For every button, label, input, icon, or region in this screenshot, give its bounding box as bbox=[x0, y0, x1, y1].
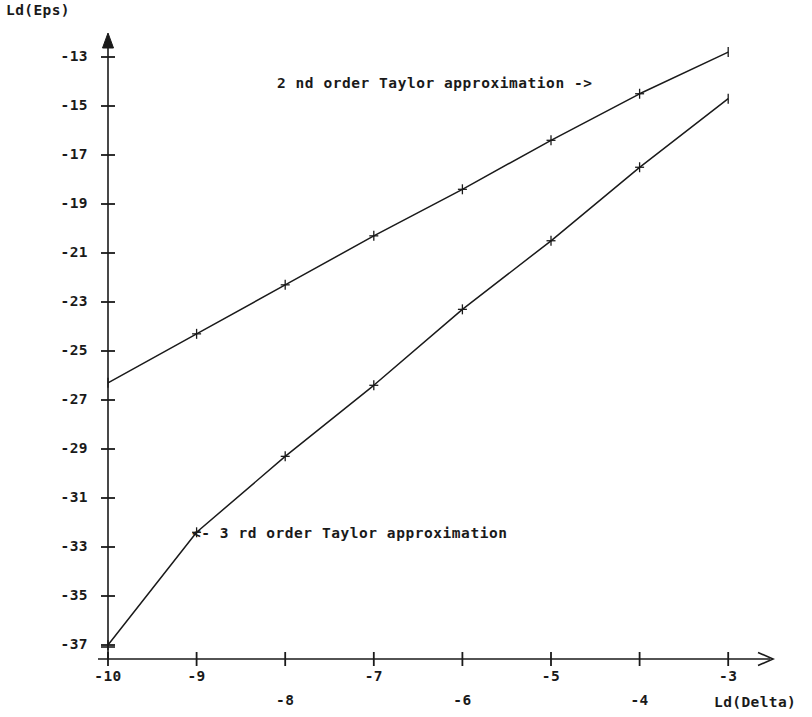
x-tick-label: -3 bbox=[700, 668, 756, 684]
y-tick-label: -15 bbox=[30, 97, 88, 113]
annotation-third-order: <- 3 rd order Taylor approximation bbox=[192, 525, 508, 541]
tick-marks bbox=[101, 57, 728, 666]
x-tick-label: -9 bbox=[169, 668, 225, 684]
y-tick-label: -19 bbox=[30, 195, 88, 211]
data-point-marker bbox=[369, 231, 378, 241]
x-tick-label: -7 bbox=[346, 668, 402, 684]
x-tick-label: -4 bbox=[612, 692, 668, 708]
x-tick-label: -5 bbox=[523, 668, 579, 684]
x-tick-label: -8 bbox=[257, 692, 313, 708]
chart-canvas: Ld(Eps) Ld(Delta) 2 nd order Taylor appr… bbox=[0, 0, 812, 717]
y-tick-label: -25 bbox=[30, 342, 88, 358]
series-line-2 bbox=[108, 99, 728, 645]
y-tick-label: -23 bbox=[30, 293, 88, 309]
y-axis-arrowhead bbox=[103, 33, 114, 48]
plot-area bbox=[0, 0, 812, 717]
data-point-marker bbox=[635, 89, 644, 99]
y-tick-label: -37 bbox=[30, 636, 88, 652]
y-tick-label: -35 bbox=[30, 587, 88, 603]
annotation-second-order: 2 nd order Taylor approximation -> bbox=[277, 75, 593, 91]
y-tick-label: -21 bbox=[30, 244, 88, 260]
y-tick-label: -27 bbox=[30, 391, 88, 407]
axis-lines bbox=[98, 33, 773, 666]
data-point-marker bbox=[547, 135, 556, 145]
y-tick-label: -33 bbox=[30, 538, 88, 554]
data-point-marker bbox=[281, 280, 290, 290]
data-series bbox=[108, 47, 728, 650]
annotation-leader-lines bbox=[186, 88, 648, 535]
y-tick-label: -13 bbox=[30, 48, 88, 64]
data-point-marker bbox=[192, 329, 201, 339]
y-tick-label: -29 bbox=[30, 440, 88, 456]
y-tick-label: -17 bbox=[30, 146, 88, 162]
x-tick-label: -6 bbox=[434, 692, 490, 708]
data-point-marker bbox=[458, 184, 467, 194]
y-axis-title: Ld(Eps) bbox=[6, 2, 70, 18]
x-axis-title: Ld(Delta) bbox=[714, 694, 796, 710]
y-tick-label: -31 bbox=[30, 489, 88, 505]
x-tick-label: -10 bbox=[80, 668, 136, 684]
